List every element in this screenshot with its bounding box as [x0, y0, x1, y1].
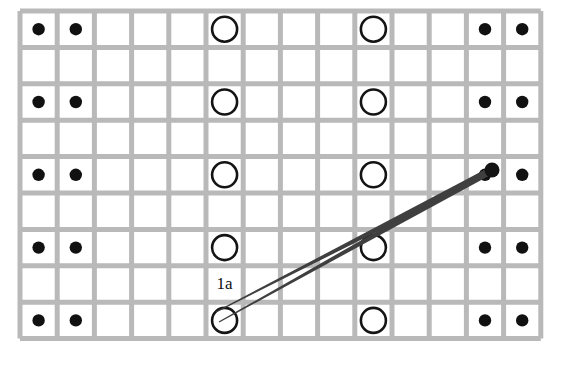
- filled-dot-marker: [32, 241, 44, 253]
- filled-dot-marker: [70, 23, 82, 35]
- filled-dot-marker: [516, 314, 528, 326]
- filled-dot-marker: [32, 96, 44, 108]
- open-circle-marker: [361, 308, 386, 333]
- filled-dot-marker: [479, 23, 491, 35]
- open-circle-marker: [361, 90, 386, 115]
- open-circle-marker: [212, 17, 237, 42]
- filled-dot-marker: [516, 241, 528, 253]
- grid-diagram-svg: 1a: [0, 0, 564, 369]
- filled-dot-marker: [70, 96, 82, 108]
- figure-canvas: 1a: [0, 0, 564, 369]
- cell-labels: 1a: [217, 274, 234, 293]
- open-circle-marker: [212, 162, 237, 187]
- open-circle-marker: [212, 90, 237, 115]
- filled-dot-marker: [70, 169, 82, 181]
- filled-dot-marker: [70, 314, 82, 326]
- open-circle-marker: [361, 17, 386, 42]
- filled-dot-marker: [479, 96, 491, 108]
- filled-dot-marker: [32, 314, 44, 326]
- grid-lines: [20, 11, 541, 339]
- filled-dot-marker: [32, 23, 44, 35]
- cell-label-1a: 1a: [217, 274, 234, 293]
- filled-dot-marker: [32, 169, 44, 181]
- pointer-lines: [216, 163, 500, 323]
- pointer-target-node: [485, 163, 500, 178]
- filled-dot-marker: [479, 314, 491, 326]
- filled-dot-marker: [70, 241, 82, 253]
- open-circle-marker: [212, 235, 237, 260]
- filled-dot-marker: [479, 241, 491, 253]
- filled-dot-marker: [516, 23, 528, 35]
- filled-dot-marker: [516, 96, 528, 108]
- filled-dot-marker: [516, 169, 528, 181]
- open-circle-marker: [361, 162, 386, 187]
